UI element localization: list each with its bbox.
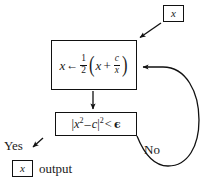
assignment-arrow-glyph: ←: [66, 59, 78, 71]
assignment-step-box: x ← 1 2 ( x + c x ): [51, 40, 137, 90]
output-caption: output: [39, 162, 72, 175]
condition-outer-exponent: 2: [100, 116, 104, 125]
output-token-box: x: [12, 160, 33, 177]
c-over-x-denominator: x: [114, 65, 120, 76]
inner-operator: +: [103, 59, 110, 72]
convergence-test-box: |x2–c|2<ϵ: [55, 112, 137, 136]
one-half-numerator: 1: [80, 54, 87, 64]
paren-close-glyph: ): [122, 56, 128, 74]
inner-first-term: x: [96, 59, 102, 72]
one-half-denominator: 2: [80, 65, 87, 76]
condition-minus: –: [84, 117, 90, 131]
edge-yes-to-output: [33, 138, 43, 147]
no-branch-label: No: [144, 143, 160, 156]
one-half-fraction: 1 2: [80, 54, 87, 75]
output-token-label: x: [20, 163, 25, 174]
c-over-x-numerator: c: [114, 54, 120, 64]
input-token-box: x: [163, 5, 184, 22]
assignment-lhs: x: [59, 59, 65, 72]
edge-input-to-update: [140, 23, 161, 38]
assignment-formula: x ← 1 2 ( x + c x ): [59, 54, 128, 75]
condition-relation: <: [105, 117, 112, 131]
input-token-label: x: [171, 8, 176, 19]
c-over-x-fraction: c x: [114, 54, 120, 75]
yes-branch-label: Yes: [4, 139, 23, 152]
connector-layer: [0, 0, 210, 181]
paren-open-glyph: (: [89, 56, 95, 74]
flowchart-canvas: x x ← 1 2 ( x + c x ) |x2–c|2<ϵ Yes No: [0, 0, 210, 181]
convergence-test-expression: |x2–c|2<ϵ: [71, 118, 120, 131]
tolerance-epsilon: ϵ: [114, 118, 121, 131]
condition-term-exponent: 2: [79, 116, 83, 125]
